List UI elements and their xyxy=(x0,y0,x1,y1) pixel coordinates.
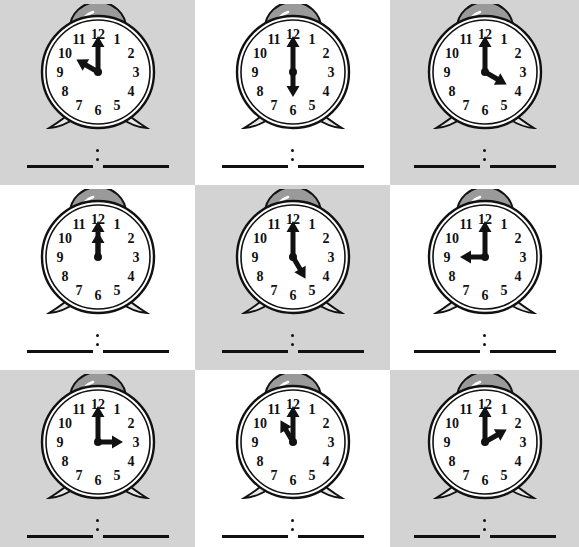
clock-numeral-7: 7 xyxy=(462,283,469,298)
answer-area-3[interactable] xyxy=(409,146,561,168)
hour-answer-blank-3[interactable] xyxy=(414,165,480,168)
clock-numeral-9: 9 xyxy=(56,250,63,265)
clock-numeral-9: 9 xyxy=(443,435,450,450)
alarm-clock-illustration: 121234567891011 xyxy=(410,189,560,329)
answer-area-9[interactable] xyxy=(409,516,561,538)
clock-cell-6: 121234567891011 xyxy=(390,185,579,370)
answer-lines xyxy=(409,165,561,168)
clock-numeral-3: 3 xyxy=(132,65,139,80)
clock-2: 121234567891011 xyxy=(218,4,368,144)
clock-center-pin xyxy=(481,253,489,261)
clock-cell-3: 121234567891011 xyxy=(390,0,579,185)
clock-center-pin xyxy=(481,438,489,446)
clock-numeral-2: 2 xyxy=(514,46,521,61)
clock-numeral-3: 3 xyxy=(132,435,139,450)
clock-numeral-1: 1 xyxy=(308,402,315,417)
colon-dot-lower xyxy=(96,343,99,346)
colon-dot-lower xyxy=(96,528,99,531)
clock-9: 121234567891011 xyxy=(410,374,560,514)
hour-answer-blank-4[interactable] xyxy=(27,350,93,353)
clock-numeral-11: 11 xyxy=(72,402,85,417)
minute-answer-blank-4[interactable] xyxy=(103,350,169,353)
minute-answer-blank-5[interactable] xyxy=(298,350,364,353)
clock-numeral-10: 10 xyxy=(58,231,72,246)
clock-numeral-3: 3 xyxy=(519,435,526,450)
clock-numeral-9: 9 xyxy=(251,250,258,265)
clock-numeral-9: 9 xyxy=(443,250,450,265)
clock-numeral-6: 6 xyxy=(94,288,101,303)
clock-numeral-11: 11 xyxy=(459,402,472,417)
clock-numeral-10: 10 xyxy=(253,46,267,61)
clock-numeral-3: 3 xyxy=(132,250,139,265)
hour-answer-blank-7[interactable] xyxy=(27,535,93,538)
clock-numeral-2: 2 xyxy=(127,46,134,61)
clock-numeral-6: 6 xyxy=(289,103,296,118)
clock-numeral-7: 7 xyxy=(75,468,82,483)
hour-answer-blank-9[interactable] xyxy=(414,535,480,538)
clock-numeral-8: 8 xyxy=(256,84,263,99)
clock-numeral-6: 6 xyxy=(481,103,488,118)
colon-dot-upper xyxy=(483,334,486,337)
minute-answer-blank-9[interactable] xyxy=(490,535,556,538)
worksheet-page: 1212345678910111212345678910111212345678… xyxy=(0,0,579,547)
clock-numeral-1: 1 xyxy=(500,32,507,47)
answer-area-5[interactable] xyxy=(217,331,369,353)
clock-numeral-9: 9 xyxy=(443,65,450,80)
answer-lines xyxy=(22,165,174,168)
clock-numeral-8: 8 xyxy=(61,269,68,284)
minute-answer-blank-3[interactable] xyxy=(490,165,556,168)
answer-area-1[interactable] xyxy=(22,146,174,168)
clock-numeral-8: 8 xyxy=(61,84,68,99)
clock-numeral-5: 5 xyxy=(113,468,120,483)
clock-center-pin xyxy=(481,68,489,76)
clock-numeral-9: 9 xyxy=(251,435,258,450)
clock-numeral-2: 2 xyxy=(127,416,134,431)
clock-numeral-7: 7 xyxy=(75,283,82,298)
clock-numeral-6: 6 xyxy=(94,473,101,488)
minute-answer-blank-7[interactable] xyxy=(103,535,169,538)
clock-numeral-10: 10 xyxy=(58,46,72,61)
colon-dot-lower xyxy=(483,158,486,161)
hour-answer-blank-8[interactable] xyxy=(222,535,288,538)
clock-numeral-1: 1 xyxy=(500,217,507,232)
clock-numeral-8: 8 xyxy=(256,269,263,284)
answer-area-2[interactable] xyxy=(217,146,369,168)
clock-center-pin xyxy=(94,438,102,446)
minute-answer-blank-8[interactable] xyxy=(298,535,364,538)
clock-numeral-5: 5 xyxy=(308,468,315,483)
answer-area-4[interactable] xyxy=(22,331,174,353)
hour-answer-blank-6[interactable] xyxy=(414,350,480,353)
clock-numeral-5: 5 xyxy=(500,283,507,298)
hour-answer-blank-2[interactable] xyxy=(222,165,288,168)
colon-dot-upper xyxy=(96,519,99,522)
clock-numeral-11: 11 xyxy=(459,217,472,232)
minute-answer-blank-2[interactable] xyxy=(298,165,364,168)
answer-area-7[interactable] xyxy=(22,516,174,538)
minute-answer-blank-1[interactable] xyxy=(103,165,169,168)
clock-numeral-5: 5 xyxy=(500,468,507,483)
hour-answer-blank-5[interactable] xyxy=(222,350,288,353)
clock-cell-7: 121234567891011 xyxy=(0,370,195,547)
clock-numeral-10: 10 xyxy=(253,416,267,431)
minute-answer-blank-6[interactable] xyxy=(490,350,556,353)
clock-numeral-4: 4 xyxy=(127,454,134,469)
answer-lines xyxy=(22,535,174,538)
colon-dot-upper xyxy=(96,334,99,337)
clock-numeral-6: 6 xyxy=(289,473,296,488)
clock-numeral-7: 7 xyxy=(270,283,277,298)
colon-dot-upper xyxy=(483,149,486,152)
hour-answer-blank-1[interactable] xyxy=(27,165,93,168)
clock-numeral-6: 6 xyxy=(94,103,101,118)
answer-lines xyxy=(22,350,174,353)
clock-numeral-6: 6 xyxy=(289,288,296,303)
clock-cell-2: 121234567891011 xyxy=(195,0,390,185)
clock-numeral-2: 2 xyxy=(322,416,329,431)
clock-center-pin xyxy=(289,253,297,261)
clock-numeral-11: 11 xyxy=(267,32,280,47)
alarm-clock-illustration: 121234567891011 xyxy=(23,4,173,144)
answer-area-8[interactable] xyxy=(217,516,369,538)
answer-area-6[interactable] xyxy=(409,331,561,353)
clock-numeral-3: 3 xyxy=(519,65,526,80)
clock-numeral-3: 3 xyxy=(327,435,334,450)
colon-dot-upper xyxy=(96,149,99,152)
